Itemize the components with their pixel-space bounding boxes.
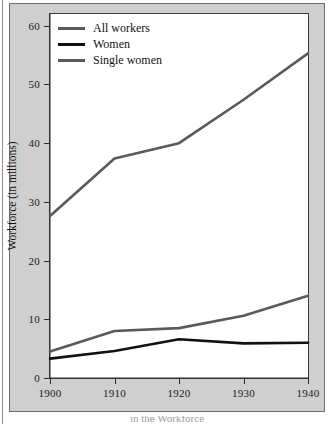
legend: All workersWomenSingle women (58, 20, 162, 68)
y-tick-mark (44, 261, 50, 262)
y-tick-mark (44, 143, 50, 144)
x-tick-label: 1920 (168, 387, 191, 399)
legend-item: All workers (58, 20, 162, 36)
caption-clip: in the Workforce (0, 416, 334, 424)
x-tick-label: 1910 (103, 387, 126, 399)
x-tick-label: 1900 (39, 387, 62, 399)
x-tick-mark (244, 378, 245, 384)
y-tick-label: 40 (14, 137, 40, 149)
legend-swatch-icon (58, 59, 85, 62)
x-tick-label: 1940 (297, 387, 320, 399)
legend-label: All workers (93, 22, 150, 34)
legend-item: Women (58, 36, 162, 52)
y-tick-mark (44, 202, 50, 203)
x-tick-label: 1930 (232, 387, 255, 399)
caption-text: in the Workforce (130, 416, 204, 424)
x-tick-mark (50, 378, 51, 384)
chart-figure: Workforce (in millions) 0102030405060 19… (0, 0, 334, 424)
y-tick-mark (44, 84, 50, 85)
y-tick-label: 0 (14, 372, 40, 384)
x-tick-mark (179, 378, 180, 384)
legend-swatch-icon (58, 43, 85, 46)
page-edge-rule (2, 0, 3, 424)
y-tick-label: 20 (14, 255, 40, 267)
y-tick-label: 50 (14, 78, 40, 90)
legend-label: Single women (93, 54, 162, 66)
y-tick-label: 30 (14, 196, 40, 208)
legend-item: Single women (58, 52, 162, 68)
y-tick-mark (44, 26, 50, 27)
y-tick-label: 10 (14, 313, 40, 325)
x-tick-mark (115, 378, 116, 384)
x-tick-mark (308, 378, 309, 384)
y-tick-label: 60 (14, 20, 40, 32)
legend-label: Women (93, 38, 130, 50)
y-tick-mark (44, 319, 50, 320)
legend-swatch-icon (58, 27, 85, 30)
